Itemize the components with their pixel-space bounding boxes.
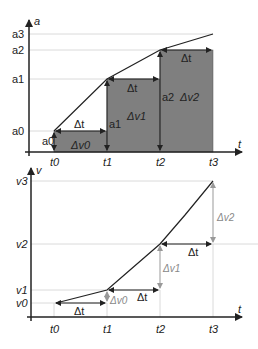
tick-v1: v1 xyxy=(16,284,28,296)
a-axis-label: a xyxy=(34,15,40,27)
acceleration-chart: a t a3 a2 a1 a0 t0 t1 t2 t3 Δt Δt Δt a0 … xyxy=(12,15,242,168)
dt-label-bottom-1: Δt xyxy=(137,291,147,303)
tick-v0: v0 xyxy=(16,297,29,309)
tick-t0-bottom: t0 xyxy=(50,323,60,335)
dv-label-0: Δv0 xyxy=(109,295,128,306)
dt-label-2: Δt xyxy=(181,52,191,64)
t-axis-label: t xyxy=(238,138,242,150)
tick-t3-bottom: t3 xyxy=(209,323,219,335)
tick-t2-bottom: t2 xyxy=(156,323,165,335)
dt-label-0: Δt xyxy=(74,118,84,130)
tick-v3: v3 xyxy=(16,175,29,187)
dv-label-2: Δv2 xyxy=(216,212,235,223)
tick-a3: a3 xyxy=(12,28,24,40)
area-label-dv0: Δv0 xyxy=(70,139,91,151)
dt-label-bottom-0: Δt xyxy=(74,305,84,317)
acceleration-velocity-diagram: a t a3 a2 a1 a0 t0 t1 t2 t3 Δt Δt Δt a0 … xyxy=(0,0,258,349)
tick-a2: a2 xyxy=(12,44,24,56)
tick-t2: t2 xyxy=(156,156,165,168)
tick-a0: a0 xyxy=(12,125,24,137)
dt-label-bottom-2: Δt xyxy=(188,246,198,258)
height-label-a2: a2 xyxy=(162,91,174,103)
area-label-dv1: Δv1 xyxy=(126,110,146,122)
dt-label-1: Δt xyxy=(127,82,137,94)
dv-label-1: Δv1 xyxy=(162,263,180,274)
tick-t3: t3 xyxy=(209,156,219,168)
tick-a1: a1 xyxy=(12,73,24,85)
tick-t0: t0 xyxy=(50,156,60,168)
height-label-a0: a0 xyxy=(42,135,54,147)
area-label-dv2: Δv2 xyxy=(179,91,199,103)
tick-t1: t1 xyxy=(103,156,112,168)
t-axis-label-bottom: t xyxy=(238,303,242,315)
height-label-a1: a1 xyxy=(109,118,121,130)
tick-t1-bottom: t1 xyxy=(103,323,112,335)
tick-v2: v2 xyxy=(16,238,28,250)
v-axis-label: v xyxy=(36,164,43,176)
velocity-chart: v t v3 v2 v1 v0 t0 t1 t2 t3 Δt Δt Δt Δv0… xyxy=(16,164,258,335)
velocity-curve xyxy=(56,181,213,303)
